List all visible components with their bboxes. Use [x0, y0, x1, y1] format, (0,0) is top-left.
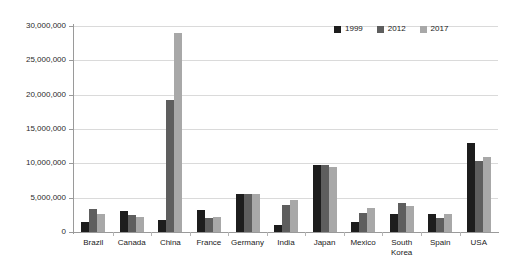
bar — [136, 217, 144, 232]
bar — [321, 165, 329, 232]
x-axis-category-label: USA — [460, 238, 499, 248]
y-axis-tick-mark — [69, 60, 73, 61]
y-axis-tick-label: 25,000,000 — [0, 56, 66, 64]
x-axis-tick-mark — [151, 232, 152, 236]
bar — [197, 210, 205, 232]
legend-item-2012[interactable]: 2012 — [377, 25, 406, 33]
legend-label: 1999 — [345, 25, 363, 33]
y-axis-tick-label: 5,000,000 — [0, 194, 66, 202]
plot-area — [74, 26, 498, 232]
bar — [128, 215, 136, 233]
x-axis-line — [73, 232, 499, 233]
bar — [359, 213, 367, 232]
x-axis-category-label: South Korea — [382, 238, 421, 257]
legend-swatch-icon — [334, 26, 341, 33]
y-axis-tick-label: 0 — [0, 228, 66, 236]
bar — [89, 209, 97, 232]
bar-chart: 05,000,00010,000,00015,000,00020,000,000… — [0, 0, 512, 275]
bar — [97, 214, 105, 233]
x-axis-tick-mark — [113, 232, 114, 236]
bar — [367, 208, 375, 232]
bar — [205, 218, 213, 232]
bar — [436, 218, 444, 232]
bar-group — [81, 26, 105, 232]
bar — [390, 214, 398, 233]
legend-label: 2017 — [431, 25, 449, 33]
x-axis-tick-mark — [421, 232, 422, 236]
x-axis-category-label: Germany — [228, 238, 267, 248]
bar — [252, 194, 260, 232]
y-axis-tick-mark — [69, 232, 73, 233]
bar-group — [313, 26, 337, 232]
x-axis-category-label: China — [151, 238, 190, 248]
bar — [120, 211, 128, 232]
bar — [236, 194, 244, 233]
bar — [428, 214, 436, 232]
x-axis-category-label: France — [190, 238, 229, 248]
x-axis-category-label: Mexico — [344, 238, 383, 248]
bar — [174, 33, 182, 232]
x-axis-tick-mark — [228, 232, 229, 236]
bar-group — [197, 26, 221, 232]
bar — [329, 167, 337, 232]
legend-item-1999[interactable]: 1999 — [334, 25, 363, 33]
bar — [483, 157, 491, 233]
legend-label: 2012 — [388, 25, 406, 33]
x-axis-category-label: Canada — [113, 238, 152, 248]
bar — [351, 222, 359, 232]
bar — [444, 214, 452, 232]
bar — [282, 205, 290, 232]
bar — [166, 100, 174, 233]
chart-legend: 199920122017 — [334, 25, 448, 33]
y-axis-tick-label: 20,000,000 — [0, 91, 66, 99]
x-axis-category-label: Spain — [421, 238, 460, 248]
bar-group — [467, 26, 491, 232]
y-axis-tick-mark — [69, 198, 73, 199]
x-axis-category-label: Japan — [305, 238, 344, 248]
y-axis-tick-label: 30,000,000 — [0, 22, 66, 30]
y-axis-tick-label: 10,000,000 — [0, 159, 66, 167]
y-axis-tick-mark — [69, 95, 73, 96]
bar — [467, 143, 475, 232]
x-axis-category-label: Brazil — [74, 238, 113, 248]
bar-group — [120, 26, 144, 232]
bar — [81, 222, 89, 232]
bar-group — [236, 26, 260, 232]
bar — [406, 206, 414, 232]
y-axis-tick-mark — [69, 163, 73, 164]
bar — [158, 220, 166, 232]
y-axis-tick-mark — [69, 129, 73, 130]
bar — [313, 165, 321, 232]
legend-swatch-icon — [377, 26, 384, 33]
legend-swatch-icon — [420, 26, 427, 33]
bar-group — [274, 26, 298, 232]
x-axis-tick-mark — [460, 232, 461, 236]
bar-group — [351, 26, 375, 232]
bar — [290, 200, 298, 232]
x-axis-tick-mark — [267, 232, 268, 236]
bar — [475, 161, 483, 232]
x-axis-tick-mark — [382, 232, 383, 236]
x-axis-tick-mark — [190, 232, 191, 236]
x-axis-category-label: India — [267, 238, 306, 248]
x-axis-tick-mark — [305, 232, 306, 236]
bar-group — [390, 26, 414, 232]
bar — [274, 225, 282, 232]
bar — [398, 203, 406, 233]
bar — [244, 194, 252, 233]
y-axis-tick-label: 15,000,000 — [0, 125, 66, 133]
x-axis-tick-mark — [344, 232, 345, 236]
bar — [213, 217, 221, 232]
bar-group — [158, 26, 182, 232]
bar-group — [428, 26, 452, 232]
legend-item-2017[interactable]: 2017 — [420, 25, 449, 33]
y-axis-tick-mark — [69, 26, 73, 27]
